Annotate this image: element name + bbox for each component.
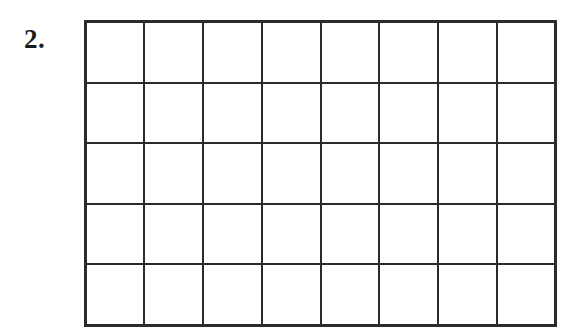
grid-cell[interactable] — [497, 143, 556, 204]
grid-cell[interactable] — [203, 143, 262, 204]
grid-cell-value — [145, 265, 202, 324]
grid-cell-value — [498, 23, 554, 82]
grid-cell[interactable] — [144, 264, 203, 325]
table-row — [86, 264, 556, 325]
table-row — [86, 204, 556, 265]
grid-cell[interactable] — [321, 143, 380, 204]
grid-cell-value — [380, 144, 437, 203]
grid-cell-value — [204, 205, 261, 264]
grid-cell[interactable] — [86, 22, 145, 83]
grid-cell-value — [263, 144, 320, 203]
grid-cell[interactable] — [497, 83, 556, 144]
grid-cell[interactable] — [379, 143, 438, 204]
grid-cell-value — [380, 205, 437, 264]
grid-cell[interactable] — [262, 264, 321, 325]
grid-cell[interactable] — [321, 22, 380, 83]
answer-grid-body — [86, 22, 556, 326]
worksheet-page: 2. — [0, 0, 585, 334]
grid-cell[interactable] — [203, 22, 262, 83]
grid-cell-value — [380, 265, 437, 324]
grid-cell[interactable] — [262, 204, 321, 265]
problem-number-label: 2. — [24, 22, 74, 56]
grid-cell-value — [87, 265, 143, 324]
grid-cell-value — [439, 144, 496, 203]
grid-cell[interactable] — [379, 204, 438, 265]
grid-cell[interactable] — [438, 264, 497, 325]
grid-cell[interactable] — [262, 83, 321, 144]
grid-cell-value — [498, 84, 554, 143]
grid-cell-value — [380, 23, 437, 82]
answer-grid-container — [84, 20, 557, 327]
grid-cell-value — [204, 84, 261, 143]
grid-cell[interactable] — [203, 264, 262, 325]
grid-cell[interactable] — [144, 143, 203, 204]
grid-cell[interactable] — [497, 22, 556, 83]
grid-cell-value — [322, 265, 379, 324]
grid-cell-value — [322, 205, 379, 264]
grid-cell-value — [204, 23, 261, 82]
grid-cell-value — [263, 84, 320, 143]
grid-cell[interactable] — [262, 22, 321, 83]
grid-cell-value — [322, 23, 379, 82]
grid-cell-value — [87, 23, 143, 82]
grid-cell[interactable] — [86, 83, 145, 144]
grid-cell[interactable] — [321, 264, 380, 325]
grid-cell-value — [322, 84, 379, 143]
table-row — [86, 83, 556, 144]
grid-cell-value — [439, 265, 496, 324]
grid-cell-value — [145, 144, 202, 203]
grid-cell-value — [322, 144, 379, 203]
table-row — [86, 22, 556, 83]
grid-cell[interactable] — [86, 264, 145, 325]
grid-cell-value — [204, 144, 261, 203]
grid-cell-value — [498, 265, 554, 324]
grid-cell[interactable] — [438, 204, 497, 265]
grid-cell[interactable] — [438, 83, 497, 144]
grid-cell-value — [145, 205, 202, 264]
grid-cell[interactable] — [86, 143, 145, 204]
grid-cell-value — [87, 205, 143, 264]
grid-cell[interactable] — [144, 83, 203, 144]
grid-cell-value — [87, 144, 143, 203]
grid-cell[interactable] — [321, 83, 380, 144]
grid-cell[interactable] — [203, 204, 262, 265]
grid-cell[interactable] — [379, 83, 438, 144]
grid-cell-value — [439, 84, 496, 143]
grid-cell[interactable] — [438, 143, 497, 204]
grid-cell[interactable] — [379, 22, 438, 83]
grid-cell-value — [439, 23, 496, 82]
grid-cell[interactable] — [497, 264, 556, 325]
grid-cell-value — [204, 265, 261, 324]
grid-cell[interactable] — [203, 83, 262, 144]
grid-cell-value — [380, 84, 437, 143]
grid-cell-value — [498, 205, 554, 264]
grid-cell-value — [439, 205, 496, 264]
table-row — [86, 143, 556, 204]
grid-cell[interactable] — [379, 264, 438, 325]
grid-cell-value — [87, 84, 143, 143]
grid-cell[interactable] — [497, 204, 556, 265]
grid-cell-value — [263, 205, 320, 264]
grid-cell-value — [498, 144, 554, 203]
answer-grid — [84, 20, 557, 327]
grid-cell[interactable] — [144, 204, 203, 265]
grid-cell-value — [263, 23, 320, 82]
grid-cell-value — [145, 23, 202, 82]
grid-cell[interactable] — [438, 22, 497, 83]
grid-cell-value — [145, 84, 202, 143]
grid-cell[interactable] — [262, 143, 321, 204]
grid-cell[interactable] — [144, 22, 203, 83]
grid-cell[interactable] — [321, 204, 380, 265]
grid-cell[interactable] — [86, 204, 145, 265]
grid-cell-value — [263, 265, 320, 324]
